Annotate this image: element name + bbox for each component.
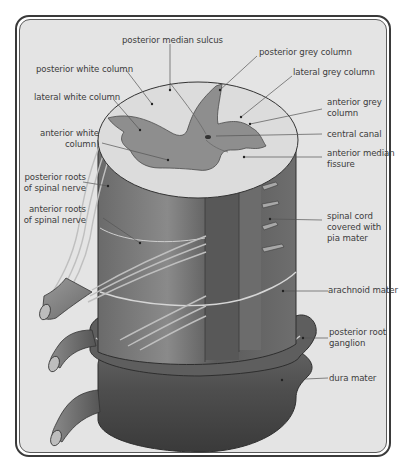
label-anterior-roots: anterior roots of spinal nerve	[22, 204, 86, 226]
label-anterior-white-column: anterior white column	[40, 128, 96, 150]
label-anterior-grey-column: anterior grey column	[327, 97, 382, 119]
label-lateral-grey-column: lateral grey column	[293, 67, 375, 78]
label-posterior-roots: posterior roots of spinal nerve	[22, 172, 86, 194]
label-dura-mater: dura mater	[329, 373, 376, 384]
cross-section	[98, 82, 298, 198]
label-arachnoid-mater: arachnoid mater	[328, 285, 398, 296]
label-lateral-white-column: lateral white column	[34, 92, 120, 103]
label-posterior-root-ganglion: posterior root ganglion	[329, 327, 386, 349]
label-posterior-median-sulcus: posterior median sulcus	[122, 35, 223, 46]
label-spinal-cord-pia-mater: spinal cord covered with pia mater	[327, 211, 381, 244]
label-posterior-grey-column: posterior grey column	[259, 47, 352, 58]
label-anterior-median-fissure: anterior median fissure	[327, 148, 395, 170]
label-posterior-white-column: posterior white column	[36, 64, 133, 75]
label-central-canal: central canal	[327, 129, 382, 140]
